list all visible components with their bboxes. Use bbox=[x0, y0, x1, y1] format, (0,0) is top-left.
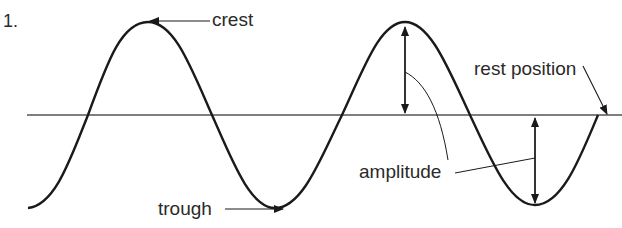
wave-diagram: 1. crest trough rest position amplitude bbox=[0, 0, 622, 228]
rest-position-label: rest position bbox=[474, 59, 576, 78]
wave-diagram-svg bbox=[0, 0, 622, 228]
rest-position-arrow bbox=[583, 66, 607, 114]
amplitude-leader-2 bbox=[455, 158, 535, 173]
amplitude-label: amplitude bbox=[359, 162, 441, 181]
amplitude-leader-1 bbox=[405, 72, 448, 160]
crest-label: crest bbox=[212, 10, 253, 29]
figure-number: 1. bbox=[3, 12, 18, 30]
trough-label: trough bbox=[158, 199, 212, 218]
